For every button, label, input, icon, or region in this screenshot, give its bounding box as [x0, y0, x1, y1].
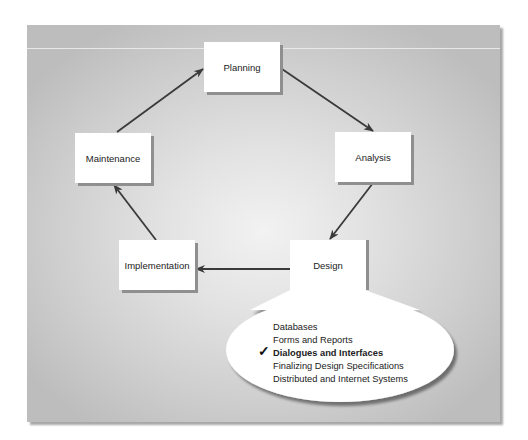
callout-item: Finalizing Design Specifications: [273, 360, 408, 373]
callout-item: Databases: [273, 321, 408, 334]
callout-item: Forms and Reports: [273, 334, 408, 347]
checkmark-icon: ✓: [258, 345, 270, 358]
node-label: Planning: [224, 62, 261, 73]
callout-item: Distributed and Internet Systems: [273, 373, 408, 386]
node-label: Design: [313, 260, 343, 271]
node-planning: Planning: [204, 42, 280, 92]
node-label: Analysis: [355, 152, 390, 163]
design-callout-list: Databases Forms and Reports ✓ Dialogues …: [273, 321, 408, 386]
node-label: Maintenance: [86, 153, 140, 164]
node-implementation: Implementation: [119, 240, 195, 290]
node-design: Design: [290, 240, 366, 290]
node-analysis: Analysis: [335, 132, 411, 182]
node-label: Implementation: [125, 260, 190, 271]
node-maintenance: Maintenance: [75, 133, 151, 183]
callout-item-current: ✓ Dialogues and Interfaces: [273, 347, 408, 360]
